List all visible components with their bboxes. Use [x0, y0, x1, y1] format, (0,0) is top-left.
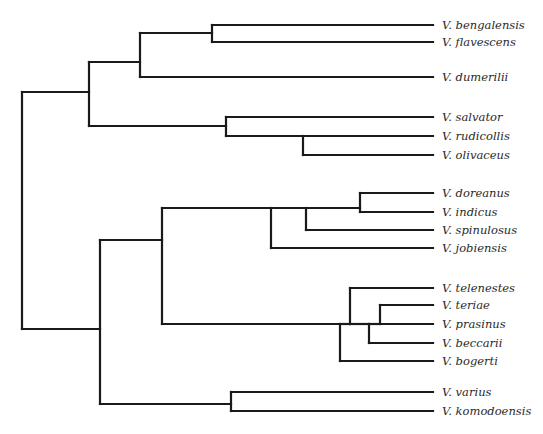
taxon-label-flavescens: V. flavescens — [442, 35, 516, 49]
taxon-label-olivaceus: V. olivaceus — [442, 148, 510, 162]
taxon-label-rudicollis: V. rudicollis — [442, 129, 510, 143]
taxon-label-prasinus: V. prasinus — [442, 317, 506, 331]
taxon-label-salvator: V. salvator — [442, 110, 502, 124]
taxon-label-doreanus: V. doreanus — [442, 186, 510, 200]
taxon-label-teriae: V. teriae — [442, 298, 490, 312]
taxon-label-beccarii: V. beccarii — [442, 336, 502, 350]
taxon-label-dumerilii: V. dumerilii — [442, 70, 508, 84]
taxon-label-bengalensis: V. bengalensis — [442, 18, 525, 32]
taxon-label-bogerti: V. bogerti — [442, 354, 498, 368]
taxon-label-spinulosus: V. spinulosus — [442, 223, 517, 237]
taxon-label-telenestes: V. telenestes — [442, 281, 515, 295]
taxon-label-varius: V. varius — [442, 385, 491, 399]
taxon-label-indicus: V. indicus — [442, 205, 497, 219]
taxon-label-komodoensis: V. komodoensis — [442, 404, 531, 418]
taxon-label-jobiensis: V. jobiensis — [442, 241, 507, 255]
